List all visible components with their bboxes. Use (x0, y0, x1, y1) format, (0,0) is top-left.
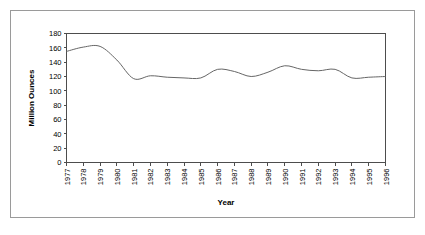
x-axis-tick-label: 1983 (163, 169, 172, 186)
y-axis-title: Million Ounces (27, 69, 36, 126)
x-axis-tick-label: 1995 (365, 169, 374, 186)
y-axis-tick-label: 140 (49, 58, 62, 67)
y-axis-tick-label: 120 (49, 72, 62, 81)
x-axis-tick-label: 1986 (214, 169, 223, 186)
line-chart: 0204060801001201401601801977197819791980… (0, 0, 425, 235)
x-axis-tick-label: 1977 (63, 169, 72, 186)
x-axis-tick-label: 1984 (180, 169, 189, 186)
y-axis-tick-label: 100 (49, 87, 62, 96)
x-axis-tick-label: 1994 (348, 169, 357, 186)
x-axis-tick-label: 1989 (264, 169, 273, 186)
data-series-line (67, 45, 386, 79)
x-axis-tick-label: 1988 (247, 169, 256, 186)
x-axis-tick-label: 1990 (281, 169, 290, 186)
x-axis-tick-label: 1991 (298, 169, 307, 186)
y-axis-tick-label: 0 (57, 158, 61, 167)
x-axis-tick-label: 1982 (146, 169, 155, 186)
y-axis-tick-label: 160 (49, 44, 62, 53)
y-axis-tick-label: 20 (53, 144, 61, 153)
y-axis-tick-label: 60 (53, 115, 61, 124)
x-axis-tick-label: 1987 (230, 169, 239, 186)
x-axis-title: Year (218, 198, 235, 207)
x-axis-tick-label: 1981 (130, 169, 139, 186)
y-axis-tick-label: 80 (53, 101, 61, 110)
x-axis-tick-label: 1993 (331, 169, 340, 186)
x-axis-tick-label: 1985 (197, 169, 206, 186)
y-axis-tick-label: 180 (49, 29, 62, 38)
x-axis-tick-label: 1978 (79, 169, 88, 186)
chart-figure: 0204060801001201401601801977197819791980… (0, 0, 425, 235)
x-axis-tick-label: 1980 (113, 169, 122, 186)
x-axis-tick-label: 1992 (314, 169, 323, 186)
x-axis-tick-label: 1979 (96, 169, 105, 186)
y-axis-tick-label: 40 (53, 130, 61, 139)
x-axis-tick-label: 1996 (382, 169, 391, 186)
